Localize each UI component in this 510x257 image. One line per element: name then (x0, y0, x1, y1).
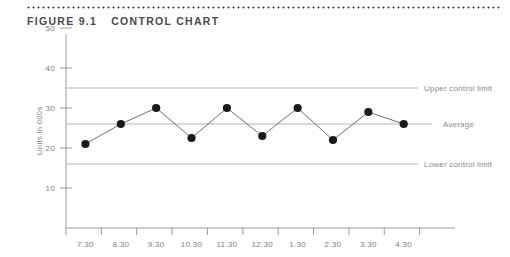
y-tick-label: 20 (46, 144, 56, 153)
y-tick-label: 50 (46, 24, 56, 33)
lower-control-limit-label: Lower control limit (424, 160, 493, 169)
x-tick-label: 1.30 (289, 240, 306, 249)
x-tick-label: 8.30 (112, 240, 129, 249)
series-markers-group (81, 104, 407, 148)
x-tick-label: 3.30 (360, 240, 377, 249)
data-point-marker (294, 104, 302, 112)
data-point-marker (152, 104, 160, 112)
data-point-marker (81, 140, 89, 148)
reference-lines-group: Upper control limitAverageLower control … (67, 84, 493, 169)
x-axis-group: 7.308.309.3010.3011.3012.301.302.303.304… (66, 228, 455, 249)
average-label: Average (443, 120, 474, 129)
y-axis-group: 1020304050 Units in 000s (35, 24, 72, 228)
data-point-marker (117, 120, 125, 128)
x-tick-label: 4.30 (395, 240, 412, 249)
data-point-marker (364, 108, 372, 116)
y-tick-label: 30 (46, 104, 56, 113)
data-point-marker (258, 132, 266, 140)
figure-container: Figure 9.1Control chart 1020304050 Units… (0, 0, 510, 257)
data-point-marker (400, 120, 408, 128)
x-tick-label: 10.30 (181, 240, 203, 249)
control-chart-svg: 1020304050 Units in 000s 7.308.309.3010.… (0, 0, 510, 257)
y-axis-title: Units in 000s (35, 106, 44, 155)
upper-control-limit-label: Upper control limit (424, 84, 493, 93)
x-tick-label: 11.30 (216, 240, 237, 249)
x-tick-group: 7.308.309.3010.3011.3012.301.302.303.304… (66, 228, 420, 249)
y-tick-group: 1020304050 (46, 24, 73, 193)
data-point-marker (187, 134, 195, 142)
data-point-marker (223, 104, 231, 112)
data-point-marker (329, 136, 337, 144)
x-tick-label: 7.30 (77, 240, 94, 249)
series-line (85, 108, 403, 144)
y-tick-label: 40 (46, 64, 56, 73)
y-tick-label: 10 (46, 184, 56, 193)
x-tick-label: 2.30 (325, 240, 342, 249)
x-tick-label: 12.30 (252, 240, 274, 249)
chart-plot-area: 1020304050 Units in 000s 7.308.309.3010.… (0, 0, 510, 257)
data-series-group (81, 104, 407, 148)
x-tick-label: 9.30 (148, 240, 165, 249)
